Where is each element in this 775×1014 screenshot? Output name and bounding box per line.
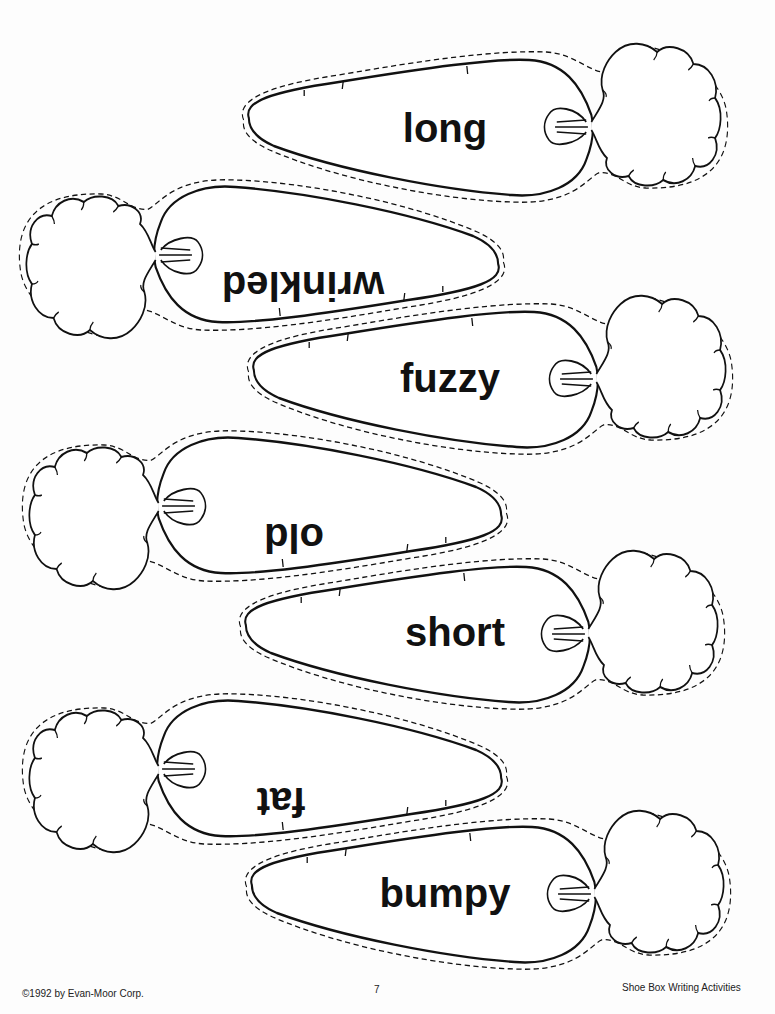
card-word-fuzzy: fuzzy	[400, 356, 501, 400]
card-word-old: old	[264, 516, 324, 560]
card-word-long: long	[403, 106, 487, 150]
carrot-artwork: long wrinkled fuzzy old short fat bumpy	[0, 0, 775, 1014]
card-word-fat: fat	[257, 780, 306, 824]
carrot-card-fat	[22, 694, 507, 853]
book-title: Shoe Box Writing Activities	[622, 982, 741, 993]
card-word-wrinkled: wrinkled	[222, 264, 385, 308]
carrot-card-wrinkled	[19, 180, 504, 339]
card-word-bumpy: bumpy	[379, 871, 511, 915]
worksheet-page: long wrinkled fuzzy old short fat bumpy …	[0, 0, 775, 1014]
page-number: 7	[374, 984, 380, 995]
card-word-short: short	[405, 610, 505, 654]
copyright-text: ©1992 by Evan-Moor Corp.	[22, 988, 144, 999]
carrot-card-old	[22, 431, 507, 590]
